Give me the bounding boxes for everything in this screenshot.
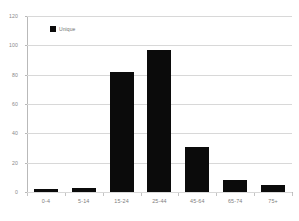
x-tick-mark: [178, 193, 179, 196]
bar-slot: [65, 16, 103, 192]
x-tick-mark: [65, 193, 66, 196]
bar-slot: [141, 16, 179, 192]
bar-slot: [103, 16, 141, 192]
bar[interactable]: [147, 50, 171, 192]
y-tick-label: 60: [0, 101, 18, 107]
bar[interactable]: [261, 185, 285, 192]
y-tick-label: 100: [0, 42, 18, 48]
y-tick-label: 20: [0, 160, 18, 166]
bar-slot: [178, 16, 216, 192]
x-axis-tick-labels: 0-45-1415-2425-4445-6465-7475+: [27, 193, 293, 219]
bar[interactable]: [185, 147, 209, 192]
x-tick-mark: [103, 193, 104, 196]
bar[interactable]: [110, 72, 134, 192]
bars-layer: [27, 16, 292, 192]
bar-slot: [27, 16, 65, 192]
y-tick-label: 40: [0, 130, 18, 136]
x-tick-mark: [292, 193, 293, 196]
x-tick-label: 75+: [251, 198, 295, 205]
x-tick-mark: [141, 193, 142, 196]
x-tick-mark: [216, 193, 217, 196]
bar-chart: 020406080100120 0-45-1415-2425-4445-6465…: [0, 0, 299, 221]
x-tick-mark: [27, 193, 28, 196]
y-tick-label: 0: [0, 189, 18, 195]
bar-slot: [254, 16, 292, 192]
legend-item-label: Unique: [59, 26, 75, 32]
bar[interactable]: [223, 180, 247, 192]
legend: Unique: [50, 26, 75, 32]
bar[interactable]: [72, 188, 96, 192]
bar[interactable]: [34, 189, 58, 192]
y-tick-label: 120: [0, 13, 18, 19]
x-tick-mark: [254, 193, 255, 196]
plot-area: 020406080100120: [27, 16, 292, 192]
bar-slot: [216, 16, 254, 192]
y-tick-label: 80: [0, 72, 18, 78]
legend-swatch-icon: [50, 26, 56, 32]
